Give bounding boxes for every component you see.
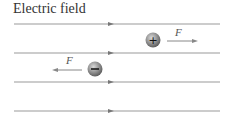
negative-charge xyxy=(88,62,103,77)
field-diagram: + F F xyxy=(0,0,232,120)
force-arrow-right xyxy=(167,39,198,43)
force-label-negative: F xyxy=(65,54,73,66)
field-lines xyxy=(14,24,220,111)
positive-charge: + xyxy=(146,33,161,48)
field-arrowheads xyxy=(108,22,114,113)
force-arrow-left xyxy=(52,68,82,72)
svg-text:+: + xyxy=(148,34,157,47)
force-label-positive: F xyxy=(174,26,182,38)
